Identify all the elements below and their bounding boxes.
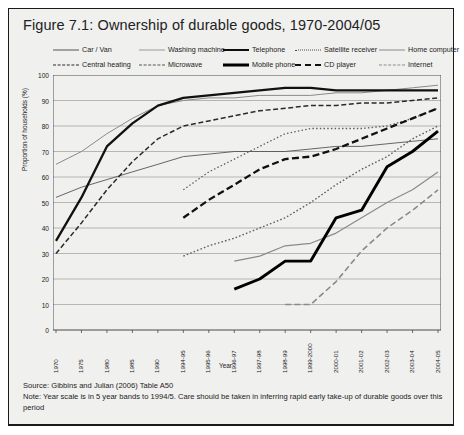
legend-label-washing-machine: Washing machine (168, 45, 225, 54)
figure-title: Figure 7.1: Ownership of durable goods, … (23, 17, 380, 33)
series-line-cd-player (183, 108, 438, 218)
method-note: Note: Year scale is in 5 year bands to 1… (23, 391, 443, 413)
y-tick-10: 10 (29, 301, 49, 308)
y-tick-70: 70 (29, 148, 49, 155)
source-note: Source: Gibbins and Julian (2006) Table … (23, 380, 443, 391)
legend-swatch-cd-player (295, 61, 321, 69)
x-tick-1998-99: 1998-99 (281, 350, 288, 373)
legend-swatch-mobile-phone (223, 61, 249, 69)
x-tick-2003-04: 2003-04 (408, 350, 415, 373)
x-tick-1999-2000: 1999-2000 (306, 343, 313, 373)
y-tick-100: 100 (29, 72, 49, 79)
legend-item-cd-player[interactable]: CD player (295, 57, 356, 72)
series-line-mobile-phone (234, 131, 438, 289)
legend-swatch-telephone (223, 46, 249, 54)
legend-label-home-computer: Home computer (408, 45, 459, 54)
legend-item-internet[interactable]: Internet (379, 57, 432, 72)
x-tick-1980: 1980 (103, 359, 110, 373)
y-tick-0: 0 (29, 327, 49, 334)
legend-swatch-satellite-receiver (295, 46, 321, 54)
legend-label-microwave: Microwave (168, 60, 202, 69)
y-tick-90: 90 (29, 97, 49, 104)
series-line-car-van (56, 139, 438, 198)
legend-item-telephone[interactable]: Telephone (223, 42, 285, 57)
legend-row-2: Central heating Microwave Mobile phone C… (23, 57, 441, 72)
x-tick-1994-95: 1994-95 (179, 350, 186, 373)
x-tick-2000-01: 2000-01 (332, 350, 339, 373)
legend-label-mobile-phone: Mobile phone (252, 60, 295, 69)
legend-item-mobile-phone[interactable]: Mobile phone (223, 57, 295, 72)
y-tick-20: 20 (29, 276, 49, 283)
legend-row-1: Car / Van Washing machine Telephone Sate… (23, 42, 441, 57)
plot-area: Proportion of households (%) 01020304050… (23, 75, 441, 375)
y-tick-50: 50 (29, 199, 49, 206)
legend-label-cd-player: CD player (324, 60, 356, 69)
legend-label-internet: Internet (408, 60, 432, 69)
legend-swatch-central-heating (53, 61, 79, 69)
legend-item-washing-machine[interactable]: Washing machine (139, 42, 225, 57)
x-tick-2001-02: 2001-02 (357, 350, 364, 373)
y-tick-80: 80 (29, 123, 49, 130)
legend-label-satellite-receiver: Satellite receiver (324, 45, 377, 54)
legend-swatch-microwave (139, 61, 165, 69)
legend-label-car-van: Car / Van (82, 45, 112, 54)
y-axis-ticks: 0102030405060708090100 (23, 75, 49, 330)
x-tick-1997-98: 1997-98 (255, 350, 262, 373)
series-line-telephone (56, 88, 438, 241)
legend-swatch-washing-machine (139, 46, 165, 54)
series-line-internet (285, 190, 438, 305)
legend-item-central-heating[interactable]: Central heating (53, 57, 131, 72)
chart-legend: Car / Van Washing machine Telephone Sate… (23, 42, 441, 74)
legend-item-car-van[interactable]: Car / Van (53, 42, 112, 57)
y-tick-40: 40 (29, 225, 49, 232)
x-axis-ticks: 197019751980198519901994-951995-961996-9… (53, 333, 441, 373)
legend-swatch-home-computer (379, 46, 405, 54)
x-axis-label: Year (219, 362, 232, 369)
x-tick-1985: 1985 (128, 359, 135, 373)
x-tick-2004-05: 2004-05 (434, 350, 441, 373)
x-tick-1990: 1990 (153, 359, 160, 373)
figure-container: Figure 7.1: Ownership of durable goods, … (8, 8, 454, 426)
legend-swatch-car-van (53, 46, 79, 54)
legend-item-satellite-receiver[interactable]: Satellite receiver (295, 42, 377, 57)
bottom-divider (9, 424, 453, 425)
legend-label-central-heating: Central heating (82, 60, 131, 69)
legend-item-microwave[interactable]: Microwave (139, 57, 202, 72)
y-tick-30: 30 (29, 250, 49, 257)
x-tick-1970: 1970 (52, 359, 59, 373)
x-tick-2002-03: 2002-03 (383, 350, 390, 373)
chart-canvas (53, 75, 441, 333)
x-tick-1975: 1975 (77, 359, 84, 373)
x-tick-1995-96: 1995-96 (204, 350, 211, 373)
legend-item-home-computer[interactable]: Home computer (379, 42, 459, 57)
figure-notes: Source: Gibbins and Julian (2006) Table … (23, 380, 443, 413)
legend-label-telephone: Telephone (252, 45, 285, 54)
legend-swatch-internet (379, 61, 405, 69)
y-tick-60: 60 (29, 174, 49, 181)
